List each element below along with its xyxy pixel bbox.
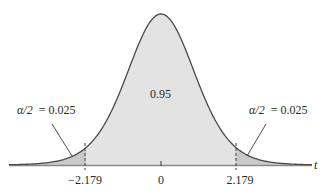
right-tail-label: α/2 = 0.025 xyxy=(249,103,307,117)
right-tail-alpha: α/2 xyxy=(249,103,265,117)
right-tail-leader-line xyxy=(247,124,266,156)
tick-label-zero: 0 xyxy=(158,173,164,187)
left-tail-label: α/2 = 0.025 xyxy=(17,103,75,117)
x-axis-variable-label: t xyxy=(314,158,318,172)
left-tail-alpha: α/2 xyxy=(17,103,33,117)
right-tail-value: = 0.025 xyxy=(271,103,308,117)
left-tail-leader-line xyxy=(52,124,72,156)
t-distribution-chart: 0.95 α/2 = 0.025 α/2 = 0.025 t −2.179 0 … xyxy=(0,0,324,194)
center-area-label: 0.95 xyxy=(150,87,171,101)
tick-label-neg: −2.179 xyxy=(68,173,102,187)
tick-label-pos: 2.179 xyxy=(227,173,254,187)
left-tail-value: = 0.025 xyxy=(39,103,76,117)
